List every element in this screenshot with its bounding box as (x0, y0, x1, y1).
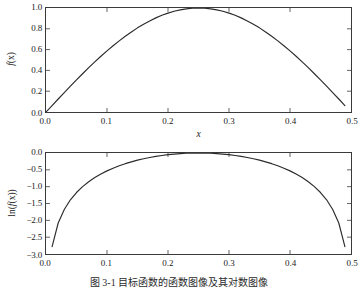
plot-area-bottom (46, 153, 351, 254)
chart-panel-bottom: 0.0−0.5−1.0−1.5−2.0−2.5−3.0 ln(f(x)) 0.0… (0, 140, 358, 272)
plot-frame-top (45, 7, 352, 113)
y-tick-label: 0.8 (2, 24, 42, 33)
y-axis-title-top: f(x) (6, 34, 16, 84)
y-axis-title-bottom-open: ln( (7, 206, 17, 217)
x-axis-tick-labels-bottom: 0.00.10.20.30.40.5 (45, 259, 352, 271)
y-tick-label: 1.0 (2, 3, 42, 12)
x-tick-label: 0.4 (273, 259, 309, 268)
x-tick-label: 0.0 (27, 117, 63, 126)
x-tick-label: 0.1 (88, 117, 124, 126)
y-axis-title-top-arg: (x) (6, 52, 16, 63)
figure-container: 1.00.80.60.40.20.0 f(x) 0.00.10.20.30.40… (0, 0, 358, 289)
x-tick-label: 0.5 (334, 259, 358, 268)
plot-frame-bottom (45, 152, 352, 255)
x-axis-title-top: x (45, 129, 352, 139)
x-tick-label: 0.2 (150, 117, 186, 126)
data-curve-bottom (52, 153, 345, 247)
y-axis-title-bottom: ln(f(x)) (7, 168, 17, 238)
x-axis-tick-labels-top: 0.00.10.20.30.40.5 (45, 117, 352, 129)
x-tick-label: 0.2 (150, 259, 186, 268)
tick-marks-bottom (46, 153, 351, 254)
x-tick-label: 0.4 (273, 117, 309, 126)
x-tick-label: 0.0 (27, 259, 63, 268)
x-tick-label: 0.5 (334, 117, 358, 126)
y-axis-title-bottom-close: (x)) (7, 189, 17, 203)
plot-area-top (46, 8, 351, 112)
y-axis-title-top-fn: f (6, 63, 16, 66)
figure-caption: 图 3-1 目标函数的函数图像及其对数图像 (0, 277, 358, 289)
chart-panel-top: 1.00.80.60.40.20.0 f(x) 0.00.10.20.30.40… (0, 0, 358, 140)
y-tick-label: 0.0 (2, 148, 42, 157)
x-tick-label: 0.3 (211, 259, 247, 268)
x-tick-label: 0.1 (88, 259, 124, 268)
data-curve-top (46, 8, 345, 112)
x-tick-label: 0.3 (211, 117, 247, 126)
tick-marks-top (46, 8, 351, 112)
y-tick-label: 0.2 (2, 87, 42, 96)
